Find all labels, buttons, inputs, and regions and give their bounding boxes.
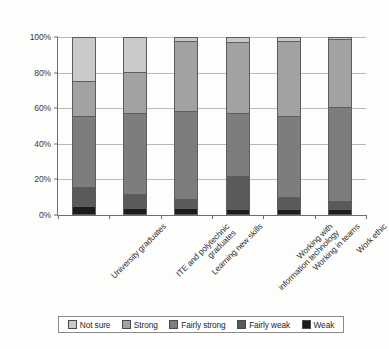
- y-axis-tick-label: 0%: [39, 210, 51, 220]
- bar-segment: [227, 114, 249, 177]
- bar-segment: [124, 73, 146, 113]
- bar-segment: [124, 195, 146, 209]
- bar-segment: [73, 117, 95, 187]
- legend-label: Weak: [314, 320, 335, 330]
- y-axis-tick-label: 100%: [30, 32, 51, 42]
- bar-segment: [73, 38, 95, 82]
- bar-segment: [175, 200, 197, 209]
- bar-segment: [329, 40, 351, 109]
- bar-segment: [227, 177, 249, 210]
- bar-segment: [329, 108, 351, 201]
- bar-column[interactable]: [123, 37, 147, 215]
- y-axis-tick-mark: [54, 72, 58, 73]
- legend-swatch-icon: [68, 320, 77, 329]
- bar-segment: [329, 210, 351, 214]
- bar-segment: [278, 42, 300, 118]
- bar-segment: [73, 82, 95, 117]
- x-axis-category-label: University graduates: [109, 222, 168, 281]
- legend-swatch-icon: [237, 320, 246, 329]
- x-axis-tick-mark: [366, 215, 367, 219]
- x-axis-tick-mark: [212, 215, 213, 219]
- legend-item[interactable]: Strong: [122, 320, 158, 330]
- legend-item[interactable]: Not sure: [68, 320, 111, 330]
- bar-segment: [124, 209, 146, 214]
- bar-segment: [278, 117, 300, 198]
- x-axis-tick-mark: [58, 215, 59, 219]
- bar-segment: [175, 112, 197, 200]
- legend-swatch-icon: [302, 320, 311, 329]
- y-axis-tick-mark: [54, 143, 58, 144]
- bar-segment: [175, 42, 197, 112]
- legend-item[interactable]: Weak: [302, 320, 335, 330]
- bar-segment: [124, 114, 146, 195]
- legend-label: Strong: [134, 320, 158, 330]
- legend-label: Fairly weak: [249, 320, 290, 330]
- legend-item[interactable]: Fairly weak: [237, 320, 290, 330]
- bar-segment: [73, 188, 95, 207]
- stacked-bar-chart: 0%20%40%60%80%100%University graduatesIT…: [0, 0, 389, 349]
- gridline: [58, 37, 366, 38]
- bar-segment: [124, 38, 146, 73]
- legend-label: Fairly strong: [181, 320, 225, 330]
- x-axis-tick-mark: [109, 215, 110, 219]
- x-axis-tick-mark: [161, 215, 162, 219]
- y-axis-tick-mark: [54, 37, 58, 38]
- bar-segment: [278, 198, 300, 210]
- legend-swatch-icon: [169, 320, 178, 329]
- gridline: [58, 73, 366, 74]
- bar-column[interactable]: [174, 37, 198, 215]
- bar-segment: [227, 43, 249, 113]
- gridline: [58, 108, 366, 109]
- legend-item[interactable]: Fairly strong: [169, 320, 225, 330]
- y-axis-tick-label: 20%: [34, 174, 51, 184]
- bar-segment: [73, 207, 95, 214]
- bar-segment: [329, 202, 351, 211]
- legend-label: Not sure: [80, 320, 111, 330]
- x-axis-tick-mark: [263, 215, 264, 219]
- bar-segment: [278, 210, 300, 214]
- bar-column[interactable]: [226, 37, 250, 215]
- y-axis-tick-mark: [54, 179, 58, 180]
- y-axis-tick-label: 40%: [34, 139, 51, 149]
- chart-legend: Not sureStrongFairly strongFairly weakWe…: [58, 316, 344, 333]
- gridline: [58, 144, 366, 145]
- bar-column[interactable]: [277, 37, 301, 215]
- y-axis-tick-mark: [54, 108, 58, 109]
- y-axis-tick-label: 60%: [34, 103, 51, 113]
- bar-column[interactable]: [72, 37, 96, 215]
- plot-area: 0%20%40%60%80%100%University graduatesIT…: [57, 37, 366, 216]
- x-axis-tick-mark: [315, 215, 316, 219]
- legend-swatch-icon: [122, 320, 131, 329]
- bar-column[interactable]: [328, 37, 352, 215]
- y-axis-tick-label: 80%: [34, 68, 51, 78]
- bar-segment: [227, 210, 249, 214]
- gridline: [58, 179, 366, 180]
- bar-segment: [175, 209, 197, 214]
